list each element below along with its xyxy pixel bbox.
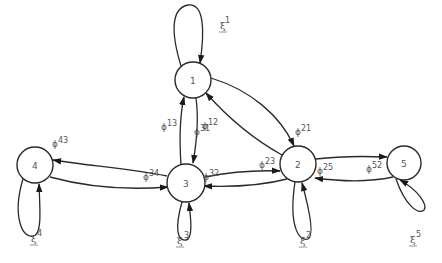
svg-text:43: 43 bbox=[58, 136, 68, 145]
svg-text:2: 2 bbox=[306, 231, 311, 240]
node-4-label: 4 bbox=[32, 161, 38, 171]
svg-text:52: 52 bbox=[372, 161, 382, 170]
edge-4-3 bbox=[50, 177, 168, 188]
loop-label-5: ξ 5 bbox=[409, 230, 421, 246]
node-2-label: 2 bbox=[295, 160, 301, 170]
node-5-label: 5 bbox=[401, 159, 407, 169]
edge-1-3 bbox=[180, 97, 184, 165]
loop-label-4: ξ 4 bbox=[30, 229, 42, 245]
edge-label-23: ϕ 23 bbox=[259, 157, 275, 170]
node-1: 1 bbox=[175, 62, 211, 98]
self-loop-5 bbox=[396, 179, 425, 211]
svg-text:23: 23 bbox=[265, 157, 275, 166]
node-5: 5 bbox=[387, 146, 421, 180]
self-loop-1 bbox=[174, 5, 203, 66]
svg-text:4: 4 bbox=[37, 229, 42, 238]
edge-label-25: ϕ 25 bbox=[317, 163, 333, 176]
svg-text:25: 25 bbox=[323, 163, 333, 172]
svg-text:32: 32 bbox=[209, 169, 219, 178]
state-diagram: 1 2 3 4 5 ϕ 13 ϕ 12 ϕ 31 ϕ 21 ϕ 43 ϕ 34 … bbox=[0, 0, 442, 263]
node-1-label: 1 bbox=[190, 76, 196, 86]
self-loop-4 bbox=[18, 179, 40, 236]
svg-text:5: 5 bbox=[416, 230, 421, 239]
svg-text:3: 3 bbox=[184, 231, 189, 240]
edge-2-5 bbox=[316, 156, 387, 159]
svg-text:1: 1 bbox=[225, 16, 230, 25]
node-4: 4 bbox=[17, 147, 53, 183]
edge-2-3 bbox=[204, 179, 287, 186]
svg-text:21: 21 bbox=[301, 124, 311, 133]
edge-label-32: ϕ 32 bbox=[203, 169, 219, 182]
edge-label-31: ϕ 31 bbox=[194, 124, 210, 137]
node-3: 3 bbox=[167, 164, 205, 202]
svg-text:34: 34 bbox=[149, 169, 159, 178]
loop-label-2: ξ 2 bbox=[299, 231, 311, 247]
edge-label-21: ϕ 21 bbox=[295, 124, 311, 137]
diagram-svg: 1 2 3 4 5 ϕ 13 ϕ 12 ϕ 31 ϕ 21 ϕ 43 ϕ 34 … bbox=[0, 0, 442, 263]
edge-label-52: ϕ 52 bbox=[366, 161, 382, 174]
loop-label-1: ξ 1 bbox=[219, 16, 230, 32]
svg-text:31: 31 bbox=[200, 124, 210, 133]
edge-5-2 bbox=[315, 177, 393, 181]
svg-text:13: 13 bbox=[167, 119, 177, 128]
edge-label-13: ϕ 13 bbox=[161, 119, 177, 132]
edge-label-43: ϕ 43 bbox=[52, 136, 68, 149]
node-2: 2 bbox=[280, 146, 316, 182]
edge-label-34: ϕ 34 bbox=[143, 169, 159, 182]
svg-text:ξ: ξ bbox=[177, 235, 183, 246]
node-3-label: 3 bbox=[183, 179, 189, 189]
